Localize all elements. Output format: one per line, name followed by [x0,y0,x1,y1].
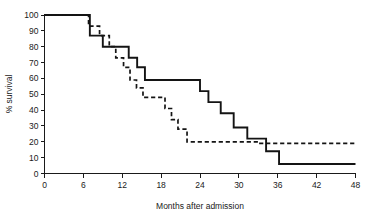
x-tick-labels: 0612182430364248 [42,180,360,190]
x-tick-label: 48 [351,180,361,190]
y-axis-title: % survival [4,75,14,114]
x-tick-label: 24 [195,180,205,190]
kaplan-meier-chart: 0102030405060708090100 % survival 061218… [0,0,368,216]
y-tick-label: 10 [29,153,39,163]
x-tick-label: 30 [234,180,244,190]
x-tick-label: 12 [118,180,128,190]
x-tick-label: 6 [81,180,86,190]
x-tick-label: 42 [312,180,322,190]
x-tick-label: 0 [42,180,47,190]
y-tick-label: 40 [29,105,39,115]
x-axis-title: Months after admission [156,201,244,211]
y-tick-label: 20 [29,137,39,147]
survival-chart-figure: 0102030405060708090100 % survival 061218… [0,0,368,216]
x-tick-label: 18 [156,180,166,190]
y-tick-label: 30 [29,121,39,131]
y-axis-group: 0102030405060708090100 % survival [4,10,45,179]
x-tick-marks [45,174,356,178]
x-axis-group: 0612182430364248 Months after admission [42,174,360,212]
y-tick-label: 100 [24,10,38,20]
y-tick-label: 90 [29,26,39,36]
y-tick-label: 70 [29,58,39,68]
y-tick-label: 80 [29,42,39,52]
y-tick-marks [41,15,45,174]
y-tick-label: 50 [29,89,39,99]
series-group [45,15,356,164]
x-tick-label: 36 [273,180,283,190]
y-tick-label: 0 [34,169,39,179]
y-tick-label: 60 [29,73,39,83]
y-tick-labels: 0102030405060708090100 [24,10,38,179]
